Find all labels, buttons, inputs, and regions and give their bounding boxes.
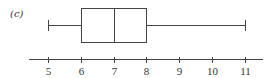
- box-plot-chart: (c) 567891011: [0, 0, 271, 78]
- tick-label: 7: [112, 65, 118, 77]
- tick-label: 11: [240, 65, 251, 77]
- box-and-whisker: [49, 9, 246, 43]
- tick-label: 6: [79, 65, 85, 77]
- tick-label: 8: [144, 65, 150, 77]
- panel-label: (c): [10, 8, 24, 19]
- tick-label: 10: [207, 65, 219, 77]
- tick-label: 5: [46, 65, 52, 77]
- x-axis: 567891011: [29, 57, 263, 78]
- tick-label: 9: [177, 65, 183, 77]
